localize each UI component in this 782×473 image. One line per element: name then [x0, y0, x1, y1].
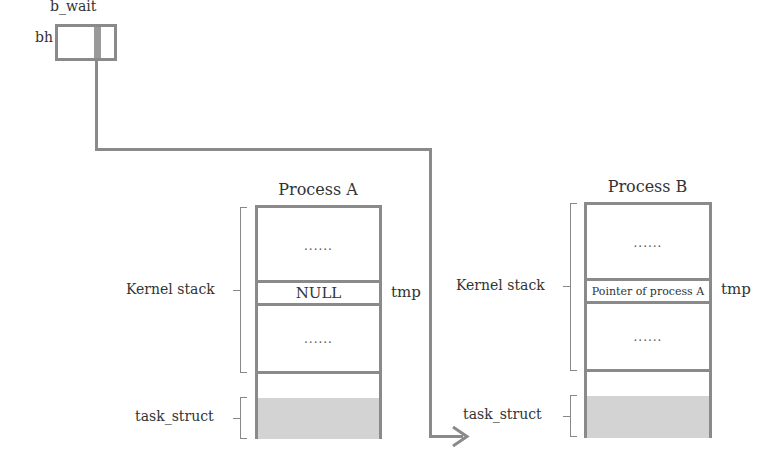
- wait-pointer-line-down2: [429, 148, 432, 438]
- process-a-kernel-stack-label: Kernel stack: [126, 281, 215, 297]
- process-b-row-middle: ......: [587, 301, 709, 370]
- bh-label: bh: [35, 29, 53, 45]
- tmp-value: Pointer of process A: [592, 285, 704, 298]
- process-b-row-empty: [587, 369, 709, 396]
- process-a-row-empty: [258, 371, 379, 398]
- process-a-task-struct-label: task_struct: [135, 408, 214, 424]
- tmp-value: NULL: [296, 284, 342, 302]
- b-wait-label: b_wait: [50, 0, 96, 14]
- process-a-title: Process A: [255, 180, 381, 199]
- buffer-head-box: [55, 24, 117, 61]
- process-b-title: Process B: [584, 177, 711, 196]
- process-b-task-struct-tick: [563, 416, 570, 417]
- wait-pointer-line-down: [95, 61, 98, 151]
- process-a-tmp-label: tmp: [391, 283, 421, 301]
- process-a-kernel-stack-bracket: [240, 207, 247, 373]
- arrow-head-icon: [450, 424, 472, 450]
- wait-pointer-line-across: [95, 148, 432, 151]
- process-b-row-top: ......: [587, 205, 709, 280]
- process-b-task-struct-label: task_struct: [463, 406, 542, 422]
- process-a-row-top: ......: [258, 208, 379, 283]
- ellipsis: ......: [634, 330, 663, 344]
- process-a-kernel-stack-tick: [233, 290, 240, 291]
- process-b-tmp-label: tmp: [721, 280, 751, 298]
- process-a-stack: ...... NULL ......: [255, 205, 382, 439]
- process-a-row-middle: ......: [258, 303, 379, 372]
- process-a-tmp-cell: NULL: [258, 280, 379, 303]
- process-b-stack: ...... Pointer of process A ......: [584, 202, 712, 438]
- process-b-tmp-cell: Pointer of process A: [587, 278, 709, 302]
- process-a-task-struct-tick: [233, 418, 240, 419]
- process-b-kernel-stack-tick: [563, 286, 570, 287]
- process-b-kernel-stack-bracket: [570, 203, 577, 371]
- ellipsis: ......: [634, 236, 663, 250]
- process-a-task-struct: [258, 398, 379, 439]
- process-b-task-struct: [587, 396, 709, 438]
- b-wait-field: [94, 27, 101, 58]
- ellipsis: ......: [304, 332, 333, 346]
- ellipsis: ......: [304, 239, 333, 253]
- process-b-task-struct-bracket: [570, 395, 577, 437]
- process-b-kernel-stack-label: Kernel stack: [456, 277, 545, 293]
- process-a-task-struct-bracket: [240, 397, 247, 439]
